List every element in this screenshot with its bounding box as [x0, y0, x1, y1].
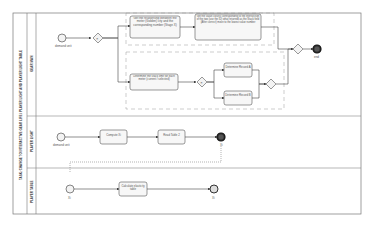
task-e[interactable]: Determine Record B	[224, 91, 252, 105]
task-e-label: Determine Record B	[225, 92, 251, 97]
end-event-inner	[315, 47, 320, 52]
end-event-2-inner	[219, 135, 224, 140]
end-label-2: Xi	[220, 143, 223, 147]
bpmn-diagram: TASK: CHANGE TO INTERACTIVE GEAR LIFE / …	[0, 0, 373, 230]
end-label-3: Xi	[212, 196, 215, 200]
start-label: demand unit	[55, 44, 72, 48]
task-a[interactable]: Get the relationship between the meter (…	[130, 16, 180, 38]
lane-label-player-light: PLAYER LIGHT	[30, 130, 34, 152]
pool-title: TASK: CHANGE TO INTERACTIVE GEAR LIFE / …	[19, 50, 23, 180]
task-c[interactable]: Determine the stack limit for each meter…	[130, 74, 178, 90]
task-calculate[interactable]: Calculate elasticity table	[119, 182, 147, 196]
task-d[interactable]: Determine Record A	[224, 63, 252, 77]
start-event-3[interactable]	[66, 185, 74, 193]
task-c-label: Determine the stack limit for each meter…	[131, 75, 177, 81]
lane-label-gear-man: GEAR MAN	[30, 56, 34, 72]
task-b-label: Get the value closest corresponding to t…	[196, 15, 260, 24]
end-label: end	[314, 55, 319, 59]
task-compute-label: Compute Xi	[101, 131, 126, 137]
task-calculate-label: Calculate elasticity table	[120, 183, 146, 191]
task-read-table-label: Read Table 2	[159, 131, 184, 137]
lane-label-player-table: PLAYER TABLE	[30, 180, 34, 203]
task-d-label: Determine Record A	[225, 64, 251, 69]
start-event-2[interactable]	[57, 133, 65, 141]
end-event-3[interactable]	[210, 185, 218, 193]
task-read-table[interactable]: Read Table 2	[158, 130, 185, 144]
task-a-label: Get the relationship between the meter (…	[131, 17, 179, 27]
start-event[interactable]	[58, 34, 66, 42]
task-b[interactable]: Get the value closest corresponding to t…	[195, 14, 261, 40]
start-label-2: demand unit	[53, 143, 70, 147]
start-label-3: Xi	[68, 196, 71, 200]
task-compute[interactable]: Compute Xi	[100, 130, 127, 144]
